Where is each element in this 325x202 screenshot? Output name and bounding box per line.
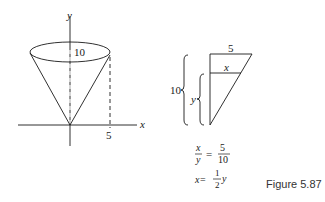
triangle-diagram bbox=[181, 54, 252, 125]
eq1-lhs-denominator: y bbox=[195, 154, 201, 165]
eq1-rhs-denominator: 10 bbox=[218, 154, 228, 165]
triangle-top-label: 5 bbox=[228, 42, 234, 54]
eq1-rhs-numerator: 5 bbox=[220, 142, 225, 153]
eq2-equals: = bbox=[200, 174, 206, 185]
equation-ratio: x y = 5 10 bbox=[195, 142, 230, 165]
height-label: 10 bbox=[74, 46, 86, 58]
figure-caption: Figure 5.87 bbox=[266, 178, 322, 190]
eq2-denominator: 2 bbox=[215, 180, 220, 190]
cone-diagram bbox=[18, 16, 137, 146]
cone-side-left bbox=[30, 53, 70, 125]
equation-solution: x = 1 2 y bbox=[194, 168, 227, 190]
eq2-numerator: 1 bbox=[215, 168, 220, 178]
cone-side-right bbox=[70, 55, 110, 125]
y-axis-label: y bbox=[66, 9, 72, 21]
triangle-inner-label: x bbox=[223, 61, 229, 73]
x-axis-label: x bbox=[139, 118, 145, 130]
eq1-lhs-numerator: x bbox=[195, 142, 201, 153]
eq1-equals: = bbox=[206, 148, 212, 160]
outer-brace bbox=[181, 55, 188, 125]
inner-brace-label: y bbox=[190, 93, 196, 105]
radius-label: 5 bbox=[106, 129, 112, 141]
outer-brace-label: 10 bbox=[170, 84, 182, 96]
right-triangle bbox=[210, 54, 252, 125]
eq2-variable: y bbox=[221, 173, 227, 184]
figure-canvas: y 10 x 5 5 x 10 y x y = 5 10 x = 1 2 y bbox=[0, 0, 325, 202]
inner-brace bbox=[197, 74, 204, 125]
